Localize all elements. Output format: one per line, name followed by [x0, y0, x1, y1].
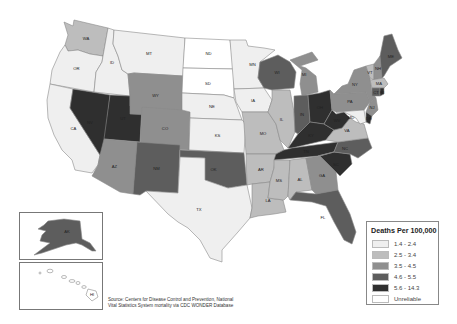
state-label-nd: ND	[205, 51, 211, 56]
state-label-al: AL	[297, 177, 303, 182]
legend: Deaths Per 100,000 1.4 - 2.4 2.5 - 3.4 3…	[366, 221, 439, 305]
state-label-nm: NM	[153, 166, 160, 171]
state-label-ct: CT	[373, 90, 379, 95]
source-note: Source: Centers for Disease Control and …	[108, 297, 278, 308]
legend-item-4: 5.6 - 14.3	[372, 282, 438, 293]
legend-swatch	[372, 295, 389, 303]
state-label-wv: WV	[334, 118, 341, 123]
hawaii-inset: HI	[19, 262, 103, 310]
state-label-va: VA	[344, 128, 349, 133]
state-label-mn: MN	[249, 62, 256, 67]
legend-swatch	[372, 251, 389, 259]
state-label-mo: MO	[260, 131, 267, 136]
legend-label: 4.6 - 5.5	[394, 274, 416, 280]
alaska-shape: AK	[20, 213, 102, 259]
state-label-az: AZ	[112, 164, 118, 169]
state-label-nc: NC	[342, 146, 348, 151]
state-label-in: IN	[300, 112, 304, 117]
state-label-wa: WA	[83, 36, 90, 41]
state-label-ut: UT	[120, 116, 126, 121]
state-label-wi: WI	[274, 70, 279, 75]
state-label-co: CO	[162, 126, 169, 131]
state-label-tx: TX	[196, 207, 202, 212]
state-label-or: OR	[73, 66, 79, 71]
legend-swatch	[372, 262, 389, 270]
state-label-sd: SD	[205, 81, 211, 86]
source-line-2: Vital Statistics System mortality via CD…	[108, 303, 278, 309]
state-label-pa: PA	[347, 99, 352, 104]
legend-title: Deaths Per 100,000	[371, 226, 438, 235]
state-label-nh: NH	[375, 66, 381, 71]
state-label-fl: FL	[321, 215, 327, 220]
legend-item-5: Unreliable	[372, 293, 438, 304]
state-label-ny: NY	[352, 82, 358, 87]
state-label-ne: NE	[209, 104, 215, 109]
legend-swatch	[372, 284, 389, 292]
state-label-md: MD	[348, 115, 355, 120]
legend-item-0: 1.4 - 2.4	[372, 238, 438, 249]
state-label-ok: OK	[210, 167, 216, 172]
legend-swatch	[372, 240, 389, 248]
state-label-mt: MT	[146, 51, 152, 56]
state-label-ks: KS	[215, 133, 221, 138]
state-label-ma: MA	[376, 81, 382, 86]
legend-swatch	[372, 273, 389, 281]
state-label-nv: NV	[87, 120, 93, 125]
state-label-ms: MS	[276, 178, 282, 183]
state-label-ak: AK	[64, 229, 70, 234]
legend-label: 3.5 - 4.5	[394, 263, 416, 269]
state-label-me: ME	[388, 54, 394, 59]
state-label-la: LA	[265, 198, 270, 203]
alaska-inset: AK	[19, 212, 103, 260]
state-label-ca: CA	[71, 126, 77, 131]
legend-label: 1.4 - 2.4	[394, 241, 416, 247]
state-label-id: ID	[110, 60, 114, 65]
state-label-vt: VT	[367, 70, 373, 75]
state-label-nj: NJ	[369, 105, 374, 110]
state-label-de: DE	[366, 116, 372, 121]
legend-label: 5.6 - 14.3	[394, 285, 419, 291]
state-label-ia: IA	[251, 98, 255, 103]
state-label-mi: MI	[302, 72, 307, 77]
state-label-wy: WY	[152, 93, 159, 98]
state-label-ar: AR	[258, 167, 264, 172]
state-label-oh: OH	[317, 105, 323, 110]
legend-label: Unreliable	[394, 296, 421, 302]
state-label-sc: SC	[333, 162, 339, 167]
legend-label: 2.5 - 3.4	[394, 252, 416, 258]
hawaii-shape: HI	[20, 263, 102, 309]
legend-item-3: 4.6 - 5.5	[372, 271, 438, 282]
state-label-ga: GA	[319, 173, 325, 178]
legend-item-1: 2.5 - 3.4	[372, 249, 438, 260]
state-label-tn: TN	[303, 149, 309, 154]
state-label-hi: HI	[90, 292, 94, 297]
state-label-ky: KY	[308, 133, 314, 138]
legend-item-2: 3.5 - 4.5	[372, 260, 438, 271]
state-label-ri: RI	[380, 90, 384, 95]
